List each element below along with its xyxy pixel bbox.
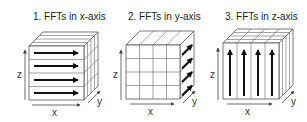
panel-title: 1. FFTs in x-axis: [33, 11, 106, 22]
z-axis-label: z: [210, 69, 215, 80]
panel-y-fft: 2. FFTs in y-axis z x y: [113, 11, 201, 117]
panel-x-fft: 1. FFTs in x-axis z x y: [17, 11, 106, 118]
panel-title: 2. FFTs in y-axis: [128, 11, 201, 22]
y-axis-label: y: [97, 96, 102, 107]
z-axis-label: z: [113, 69, 118, 80]
panel-z-fft: 3. FFTs in z-axis z x y: [210, 11, 298, 117]
x-axis-label: x: [245, 106, 250, 117]
panel-title: 3. FFTs in z-axis: [225, 11, 298, 22]
y-axis-label: y: [192, 96, 197, 107]
z-axis-label: z: [17, 69, 22, 80]
y-axis-label: y: [291, 96, 296, 107]
x-axis-label: x: [52, 107, 57, 118]
fft-diagram: 1. FFTs in x-axis z x y: [0, 0, 307, 122]
x-axis-label: x: [148, 106, 153, 117]
